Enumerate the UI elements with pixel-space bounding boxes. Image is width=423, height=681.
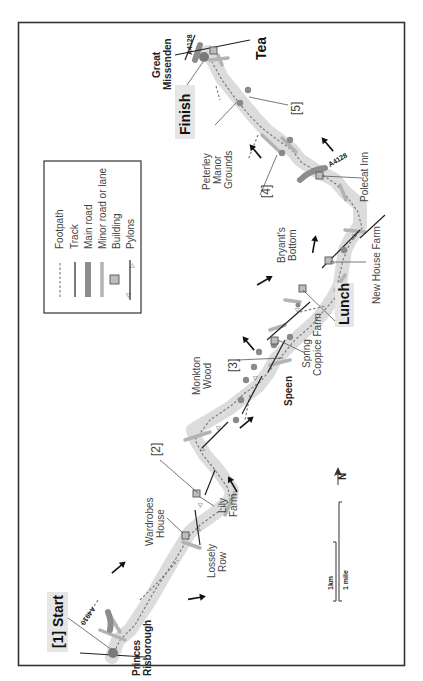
svg-text:Minor road or lane: Minor road or lane [97,167,108,249]
svg-text:Grounds: Grounds [223,151,234,189]
label-monkton-wood: Monkton Wood [191,357,213,395]
lunch-label: Lunch [335,283,354,327]
svg-text:A4128: A4128 [327,151,348,167]
walking-route-map: △ ▽ ▽ △ ▽ ▽ ▽ △ ▽ [0,0,423,681]
svg-text:Pylons: Pylons [125,219,136,249]
finish-marker [199,52,209,62]
building-tea [210,47,217,54]
road-label-a4010: A4010 [79,605,97,626]
building-spring-coppice-farm [271,337,278,344]
svg-text:A4010: A4010 [79,605,97,626]
svg-text:Coppice Farm: Coppice Farm [312,313,323,376]
svg-text:△: △ [200,444,205,451]
svg-text:[3]: [3] [226,359,240,372]
place-speen: Speen [283,376,294,406]
label-wardrobes-house: Wardrobes House [144,497,166,546]
svg-text:[5]: [5] [289,102,303,115]
svg-text:△: △ [196,524,201,531]
label-polecat-inn: Polecat Inn [359,152,370,202]
svg-text:Finish: Finish [177,94,193,135]
svg-text:Row: Row [217,551,228,572]
building-new-house-farm [325,257,332,264]
label-lily-farm: Lily Farm [217,494,239,517]
waypoint-2: [2] [149,443,163,456]
svg-text:Wardrobes: Wardrobes [144,497,155,546]
building-polecat-inn [316,172,323,179]
svg-text:House: House [155,509,166,538]
label-lossely-row: Lossely Row [206,544,228,578]
svg-text:▽: ▽ [126,291,131,298]
svg-text:▽: ▽ [198,501,203,508]
svg-text:Lunch: Lunch [336,283,352,325]
road-label-a4128-missenden: A4128 [186,34,193,55]
svg-text:Footpath: Footpath [54,210,65,249]
svg-text:▽: ▽ [253,374,258,381]
footpath-branch [216,86,220,100]
svg-text:1 mile: 1 mile [342,570,349,590]
svg-text:Bryant's: Bryant's [276,227,287,263]
building-wardrobes-house [182,532,189,539]
waypoint-3: [3] [226,359,240,372]
svg-text:A4128: A4128 [186,34,193,55]
svg-text:Building: Building [111,213,122,249]
svg-text:Farm: Farm [228,494,239,517]
svg-text:Speen: Speen [283,376,294,406]
svg-text:Spring: Spring [301,339,312,368]
place-great-missenden: Great Missenden [151,38,173,90]
label-new-house-farm: New House Farm [371,226,382,304]
label-bryants-bottom: Bryant's Bottom [276,227,298,263]
svg-text:[1] Start: [1] Start [50,595,66,648]
svg-text:Princes: Princes [131,639,142,676]
building-lily-farm [193,490,200,497]
svg-text:Monkton: Monkton [191,357,202,395]
svg-text:[2]: [2] [149,443,163,456]
svg-text:[4]: [4] [259,185,273,198]
svg-text:Manor: Manor [212,155,223,184]
waypoint-4: [4] [259,185,273,198]
svg-text:Track: Track [69,223,80,249]
finish-label: Finish [175,85,195,139]
svg-text:Wood: Wood [202,363,213,389]
svg-text:Bottom: Bottom [287,229,298,261]
svg-text:Risborough: Risborough [142,620,153,676]
svg-text:Missenden: Missenden [162,38,173,90]
svg-text:N: N [337,473,348,480]
tea-label: Tea [253,37,269,60]
start-marker [108,648,118,658]
building-lunch [299,285,306,292]
svg-text:Polecat Inn: Polecat Inn [359,152,370,202]
svg-text:Lossely: Lossely [206,544,217,578]
svg-text:△: △ [130,261,135,268]
main-road-a4010 [108,612,111,630]
minor-road [285,300,300,302]
svg-text:Peterley: Peterley [201,153,212,190]
svg-text:1km: 1km [327,576,334,590]
svg-text:New House Farm: New House Farm [371,226,382,304]
svg-text:Main road: Main road [83,205,94,249]
waypoint-5: [5] [289,102,303,115]
svg-text:▽: ▽ [352,232,357,239]
label-peterley-manor-grounds: Peterley Manor Grounds [201,151,234,190]
svg-text:Lily: Lily [217,498,228,513]
road-label-a4128-polecat: A4128 [327,151,348,167]
legend: Footpath Track Main road Minor road or l… [44,161,141,313]
start-label: [1] Start [47,592,68,652]
svg-text:Great: Great [151,51,162,78]
svg-text:▽: ▽ [216,424,221,431]
north-arrow: N [334,467,348,485]
scale-bar: 1km 1 mile [327,502,349,601]
svg-text:Tea: Tea [253,37,269,60]
